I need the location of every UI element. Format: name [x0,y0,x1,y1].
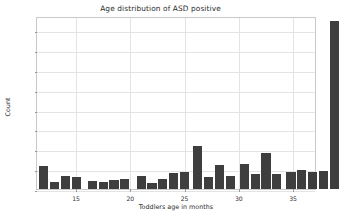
bar [109,180,118,189]
x-tick-label: 35 [289,195,297,202]
x-axis-label: Toddlers age in months [36,203,316,211]
bar [319,171,328,189]
y-tick-mark [35,32,38,33]
bar [169,173,178,189]
x-tick-label: 20 [126,195,134,202]
bar [330,21,339,189]
bar [158,179,167,189]
bar [61,176,70,189]
bar [120,179,129,189]
x-tick-mark [76,189,77,192]
x-tick-label: 30 [235,195,243,202]
bar [50,182,59,189]
bar [251,174,260,189]
y-tick-mark [35,72,38,73]
gridline-horizontal [37,191,315,192]
bar [272,174,281,189]
x-tick-mark [130,189,131,192]
chart-title: Age distribution of ASD positive [0,4,321,13]
y-tick-mark [35,52,38,53]
bar [180,172,189,189]
bar [39,166,48,189]
bar [193,146,202,189]
y-tick-mark [35,92,38,93]
x-tick-label: 15 [72,195,80,202]
x-tick-mark [239,189,240,192]
plot-area: 0255075100125150175200 1520253035 [36,17,316,190]
y-tick-mark [35,131,38,132]
bar [147,183,156,189]
bar [137,176,146,189]
y-tick-mark [35,112,38,113]
bar [99,182,108,189]
x-tick-label: 25 [181,195,189,202]
y-axis-label: Count [4,77,12,137]
bar-series [37,18,315,189]
y-tick-mark [35,191,38,192]
bar [204,177,213,189]
x-tick-mark [293,189,294,192]
bar [286,172,295,189]
bar [88,181,97,189]
bar [215,165,224,189]
bar [261,153,270,190]
bar [297,170,306,189]
bar [308,172,317,189]
bar [226,176,235,189]
x-tick-mark [185,189,186,192]
bar [72,177,81,189]
y-tick-mark [35,151,38,152]
bar [240,164,249,189]
y-tick-mark [35,171,38,172]
